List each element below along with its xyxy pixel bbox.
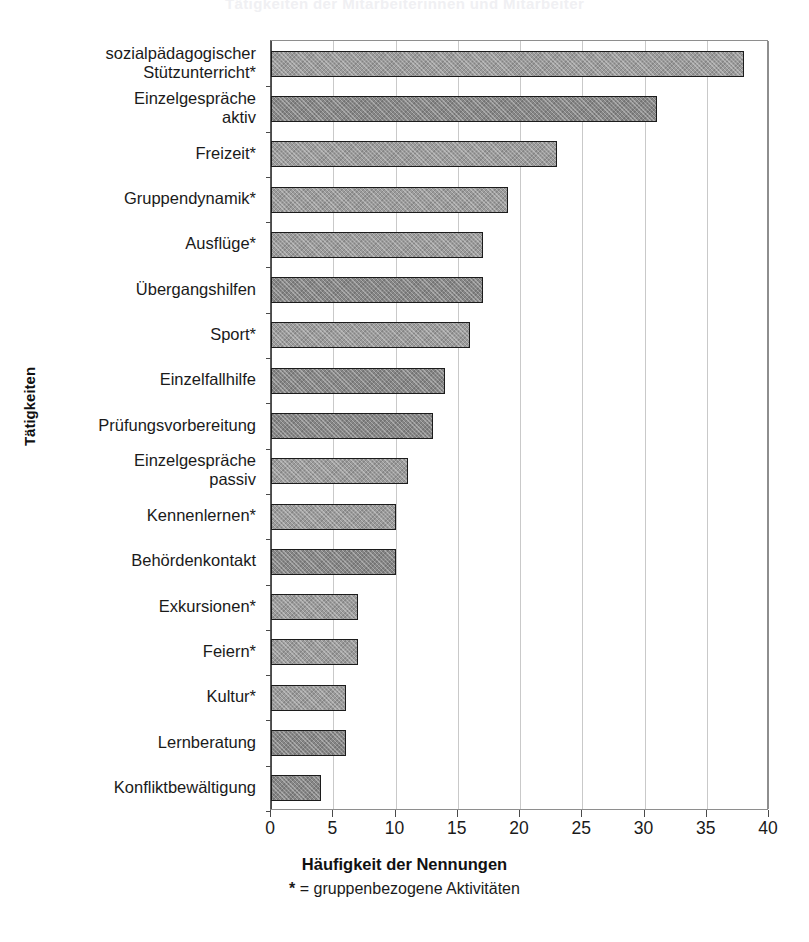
bar	[271, 277, 483, 303]
category-label: Einzelfallhilfe	[20, 370, 256, 389]
x-axis-tick-label: 15	[434, 818, 480, 839]
y-axis-tick	[266, 267, 271, 268]
bar-chart: Tätigkeiten sozialpädagogischer Stützunt…	[0, 0, 809, 942]
x-axis-tick	[395, 810, 396, 817]
category-label: Sport*	[20, 325, 256, 344]
x-axis-tick-label: 25	[558, 818, 604, 839]
x-axis-tick-label: 30	[621, 818, 667, 839]
x-axis-tick-label: 0	[247, 818, 293, 839]
y-axis-tick	[266, 675, 271, 676]
x-axis-tick-label: 10	[372, 818, 418, 839]
y-axis-tick	[266, 403, 271, 404]
bar	[271, 96, 657, 122]
y-axis-tick	[266, 585, 271, 586]
category-label: Einzelgespräche passiv	[20, 451, 256, 489]
y-axis-tick	[266, 313, 271, 314]
x-axis-tick	[270, 810, 271, 817]
y-axis-tick	[266, 539, 271, 540]
category-label: Prüfungsvorbereitung	[20, 416, 256, 435]
category-label: Kennenlernen*	[20, 506, 256, 525]
category-label: Kultur*	[20, 687, 256, 706]
bar	[271, 141, 557, 167]
x-axis-tick	[581, 810, 582, 817]
category-label: Einzelgespräche aktiv	[20, 89, 256, 127]
category-label: Freizeit*	[20, 144, 256, 163]
category-label: Exkursionen*	[20, 597, 256, 616]
gridline-30	[645, 41, 646, 809]
category-label: sozialpädagogischer Stützunterricht*	[20, 44, 256, 82]
footnote-text: = gruppenbezogene Aktivitäten	[295, 880, 520, 897]
y-axis-tick	[266, 630, 271, 631]
y-axis-tick	[266, 494, 271, 495]
bar	[271, 368, 445, 394]
bar	[271, 594, 358, 620]
bar	[271, 504, 396, 530]
gridline-40	[768, 41, 769, 809]
category-label: Übergangshilfen	[20, 280, 256, 299]
category-label: Lernberatung	[20, 733, 256, 752]
y-axis-tick	[266, 766, 271, 767]
bar	[271, 232, 483, 258]
bar	[271, 775, 321, 801]
x-axis-tick-labels: 0510152025303540	[270, 818, 768, 842]
bar	[271, 730, 346, 756]
bar	[271, 458, 408, 484]
y-axis-tick	[266, 449, 271, 450]
y-axis-tick	[266, 720, 271, 721]
x-axis-tick-label: 35	[683, 818, 729, 839]
x-axis-tick-label: 20	[496, 818, 542, 839]
chart-footnote: * = gruppenbezogene Aktivitäten	[0, 880, 809, 898]
x-axis-tick	[768, 810, 769, 817]
x-axis-tick	[457, 810, 458, 817]
bar	[271, 549, 396, 575]
gridline-35	[707, 41, 708, 809]
plot-area	[270, 40, 768, 810]
y-axis-tick	[266, 132, 271, 133]
x-axis-tick	[644, 810, 645, 817]
y-axis-tick	[266, 222, 271, 223]
x-axis-tick-label: 40	[745, 818, 791, 839]
bar	[271, 187, 508, 213]
category-label: Gruppendynamik*	[20, 189, 256, 208]
x-axis-tick	[706, 810, 707, 817]
bar	[271, 322, 470, 348]
y-axis-tick	[266, 86, 271, 87]
y-axis-tick	[266, 358, 271, 359]
x-axis-title: Häufigkeit der Nennungen	[0, 855, 809, 874]
category-label: Feiern*	[20, 642, 256, 661]
category-label: Behördenkontakt	[20, 551, 256, 570]
category-label: Konfliktbewältigung	[20, 778, 256, 797]
category-label-column: sozialpädagogischer Stützunterricht*Einz…	[20, 40, 262, 810]
bar	[271, 685, 346, 711]
category-label: Ausflüge*	[20, 234, 256, 253]
x-axis-tick	[332, 810, 333, 817]
y-axis-tick	[266, 177, 271, 178]
bar	[271, 639, 358, 665]
x-axis-tick-label: 5	[309, 818, 355, 839]
bar	[271, 413, 433, 439]
x-axis-tick	[519, 810, 520, 817]
bar	[271, 51, 744, 77]
gridline-25	[582, 41, 583, 809]
